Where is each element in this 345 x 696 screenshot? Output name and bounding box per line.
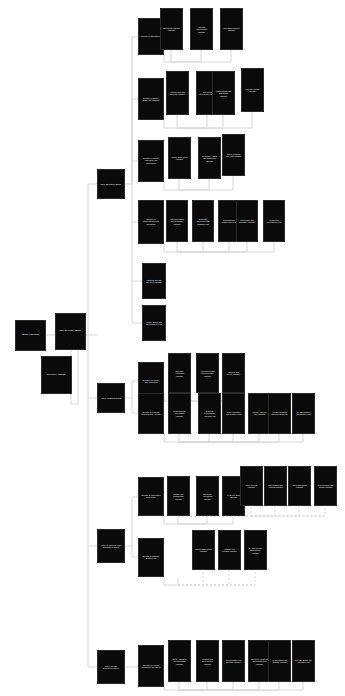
connector	[251, 506, 299, 516]
connector	[177, 115, 223, 128]
tree-node[interactable]: Executive Assistant	[41, 356, 72, 394]
tree-node[interactable]: Talent Acquisition and Recruiting Manage…	[168, 640, 191, 682]
tree-node-label: Investor Relations and Reporting Lead	[270, 411, 288, 417]
tree-node[interactable]: Diversity, Equity and Inclusion Lead	[292, 640, 315, 682]
connector	[88, 398, 97, 546]
tree-node[interactable]: Enterprise Applications Manager	[196, 476, 219, 516]
tree-node[interactable]: Treasury and Payroll Manager	[222, 353, 245, 393]
tree-node[interactable]: Health, Safety and Environment Lead	[142, 305, 166, 341]
tree-node[interactable]: Product Engineering Manager	[192, 530, 215, 570]
tree-node[interactable]: Process Improvement Manager	[190, 8, 213, 50]
connector	[177, 242, 229, 252]
tree-node-label: Chief Financial Officer	[100, 396, 122, 400]
connector	[125, 37, 138, 184]
tree-node[interactable]: Continuous Improvement Lead	[263, 200, 285, 242]
tree-node-label: Business Performance Analytics Lead	[200, 410, 218, 418]
tree-node[interactable]: Operations Planning Manager	[160, 8, 183, 50]
tree-node[interactable]: QA and Release Engineering Manager	[244, 530, 267, 570]
tree-node[interactable]: Maintenance and Reliability Manager	[236, 200, 258, 242]
tree-node[interactable]: Board of Directors	[15, 320, 46, 351]
connector	[178, 570, 229, 585]
tree-node[interactable]: Chief Executive Officer	[55, 313, 86, 350]
connector	[164, 434, 179, 442]
connector	[179, 434, 259, 442]
tree-node[interactable]: Plant Operations and Production Manager	[166, 200, 188, 242]
tree-node[interactable]: Business Performance Analytics Lead	[198, 393, 221, 434]
tree-node-label: Director of Supply Chain and Logistics	[140, 96, 161, 102]
tree-node-label: Data Platform and Analytics Manager	[266, 483, 284, 489]
connector	[178, 570, 203, 585]
tree-node-label: Chief Human Resources Officer	[100, 664, 123, 670]
tree-node-label: Cost Accounting and Controls Lead	[224, 411, 242, 417]
tree-node[interactable]: Facilities and Site Services Manager	[142, 263, 166, 299]
tree-node[interactable]: IT Governance and Vendor Manager	[314, 466, 337, 506]
tree-node-label: Health, Safety and Environment Lead	[144, 320, 163, 326]
tree-node-label: Transportation and Distribution Manager	[214, 89, 232, 97]
connector	[179, 434, 279, 442]
tree-node-label: Accounts Payable and Receivable Manager	[198, 369, 216, 377]
tree-node[interactable]: Production Scheduling and Planning Lead	[192, 200, 214, 242]
tree-node[interactable]: Transportation and Distribution Manager	[212, 71, 235, 115]
tree-node[interactable]: Chief Human Resources Officer	[97, 650, 125, 684]
connector	[125, 497, 138, 546]
tree-node[interactable]: Investor Relations and Reporting Lead	[268, 393, 291, 434]
tree-node[interactable]: Director of Human Resources and Talent	[138, 645, 164, 687]
connector	[178, 570, 255, 585]
tree-node[interactable]: Quality Engineering Manager	[168, 137, 191, 179]
tree-node[interactable]: Cost Accounting and Controls Lead	[222, 393, 245, 434]
tree-node[interactable]: Corporate Accounting Manager	[168, 353, 191, 393]
tree-node[interactable]: Director of Software Engineering	[138, 538, 164, 577]
tree-node[interactable]: Inventory Control Manager	[241, 68, 264, 112]
tree-node[interactable]: Chief Operating Officer	[97, 169, 125, 199]
tree-node[interactable]: Compensation and Benefits Manager	[222, 640, 245, 682]
connector	[179, 682, 233, 690]
connector	[251, 506, 325, 516]
tree-node[interactable]: Director of Financial Planning and Analy…	[138, 393, 164, 434]
tree-node[interactable]: Regulatory Affairs and Compliance Manage…	[198, 137, 221, 179]
tree-node[interactable]: Procurement and Sourcing Manager	[166, 71, 189, 115]
tree-node-label: Compensation and Benefits Manager	[224, 658, 242, 664]
tree-node[interactable]: Tax and Statutory Compliance Lead	[292, 393, 315, 434]
connector	[179, 179, 209, 190]
tree-node[interactable]: Chief Technology and Information Officer	[97, 529, 125, 563]
tree-node-label: Director of Software Engineering	[140, 555, 161, 561]
tree-node[interactable]: Accounts Payable and Receivable Manager	[196, 353, 219, 393]
tree-node[interactable]: Operations Support Manager	[220, 8, 243, 50]
tree-node-label: Talent Acquisition and Recruiting Manage…	[170, 657, 188, 665]
connector	[179, 682, 303, 690]
tree-node-label: Board of Directors	[21, 333, 40, 337]
tree-node[interactable]: Platform and DevOps Manager	[218, 530, 241, 570]
tree-node[interactable]: Learning and Development Manager	[196, 640, 219, 682]
tree-node[interactable]: Data Platform and Analytics Manager	[264, 466, 287, 506]
tree-node-label: Budgeting and Forecasting Manager	[170, 410, 188, 418]
connector	[164, 516, 178, 524]
tree-node[interactable]: Director of Manufacturing and Production	[138, 200, 164, 244]
connector	[179, 434, 233, 442]
tree-node-label: Plant Operations and Production Manager	[168, 217, 186, 225]
connector	[179, 434, 209, 442]
tree-node-label: Director of Information Technology	[140, 494, 161, 500]
tree-node-label: Director of Financial Planning and Analy…	[140, 411, 161, 417]
tree-node[interactable]: Quality Systems and Audit Manager	[222, 134, 245, 176]
tree-node-label: Cyber Security Manager	[242, 483, 260, 489]
tree-node-label: Regulatory Affairs and Compliance Manage…	[200, 154, 218, 162]
tree-node[interactable]: Director of Information Technology	[138, 477, 164, 516]
tree-node-label: Network and Infrastructure Manager	[169, 492, 187, 500]
tree-node[interactable]: Budgeting and Forecasting Manager	[168, 393, 191, 434]
tree-node[interactable]: Director of Quality Assurance and Compli…	[138, 140, 164, 182]
tree-node[interactable]: Director of Supply Chain and Logistics	[138, 78, 164, 120]
tree-node[interactable]: Chief Financial Officer	[97, 383, 125, 413]
tree-node[interactable]: HR Operations and Systems Manager	[268, 640, 291, 682]
diagram-canvas: Board of DirectorsChief Executive Office…	[0, 0, 345, 696]
connector	[177, 115, 207, 128]
tree-node[interactable]: Cloud Operations Manager	[288, 466, 311, 506]
tree-node[interactable]: Cyber Security Manager	[240, 466, 263, 506]
tree-node-label: Diversity, Equity and Inclusion Lead	[294, 658, 312, 664]
tree-node-label: Chief Operating Officer	[100, 182, 122, 186]
connector	[164, 115, 177, 128]
tree-node-label: Process Improvement Manager	[192, 25, 210, 33]
tree-node-label: Quality Systems and Audit Manager	[224, 152, 242, 158]
tree-node[interactable]: Network and Infrastructure Manager	[167, 476, 190, 516]
connector	[177, 242, 203, 252]
tree-node-label: Product Engineering Manager	[194, 547, 212, 553]
